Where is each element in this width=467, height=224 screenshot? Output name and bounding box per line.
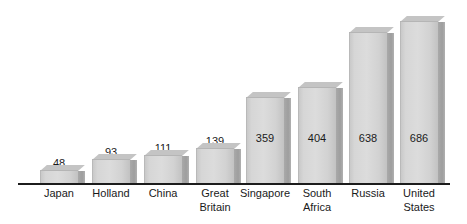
category-label-holland-line-1: Holland: [85, 186, 137, 200]
value-label-singapore: 359: [246, 132, 284, 144]
bar-united-states[interactable]: 686: [400, 22, 438, 183]
category-axis: Japan Holland China Great Britain Singap…: [0, 186, 467, 224]
bar-front-face-japan: [40, 171, 78, 183]
category-label-great-britain-line-2: Britain: [189, 200, 241, 214]
value-label-russia: 638: [349, 132, 387, 144]
bar-front-face-united-states: [400, 22, 438, 183]
category-label-united-states-line-1: United: [393, 186, 445, 200]
bar-china[interactable]: 111: [144, 156, 182, 183]
category-label-japan: Japan: [33, 186, 85, 200]
bar-side-face-russia: [387, 33, 394, 183]
bar-japan[interactable]: 48: [40, 171, 78, 183]
bar-side-face-china: [182, 156, 189, 183]
bar-holland[interactable]: 93: [92, 160, 130, 183]
bar-south-africa[interactable]: 404: [298, 88, 336, 183]
category-label-united-states: United States: [393, 186, 445, 214]
bar-side-face-united-states: [438, 22, 445, 183]
bar-front-face-china: [144, 156, 182, 183]
bar-side-face-holland: [130, 160, 137, 183]
bar-great-britain[interactable]: 139: [196, 149, 234, 183]
category-label-singapore-line-1: Singapore: [233, 186, 297, 200]
value-label-south-africa: 404: [298, 132, 336, 144]
value-label-united-states: 686: [400, 132, 438, 144]
category-label-south-africa-line-1: South: [291, 186, 343, 200]
plot-area: 48 93 111 139: [0, 0, 467, 183]
category-label-holland: Holland: [85, 186, 137, 200]
x-axis-line: [18, 183, 450, 185]
bar-chart: 48 93 111 139: [0, 0, 467, 224]
bar-front-face-great-britain: [196, 149, 234, 183]
bar-side-face-singapore: [284, 98, 291, 183]
category-label-south-africa: South Africa: [291, 186, 343, 214]
category-label-south-africa-line-2: Africa: [291, 200, 343, 214]
bar-russia[interactable]: 638: [349, 33, 387, 183]
category-label-china: China: [137, 186, 189, 200]
bar-front-face-russia: [349, 33, 387, 183]
bar-singapore[interactable]: 359: [246, 98, 284, 183]
bar-side-face-great-britain: [234, 149, 241, 183]
category-label-russia: Russia: [342, 186, 394, 200]
bar-side-face-south-africa: [336, 88, 343, 183]
category-label-singapore: Singapore: [233, 186, 297, 200]
category-label-china-line-1: China: [137, 186, 189, 200]
bar-front-face-holland: [92, 160, 130, 183]
category-label-russia-line-1: Russia: [342, 186, 394, 200]
category-label-united-states-line-2: States: [393, 200, 445, 214]
bar-side-face-japan: [78, 171, 85, 183]
category-label-japan-line-1: Japan: [33, 186, 85, 200]
